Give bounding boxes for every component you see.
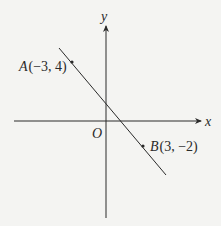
point-b-marker bbox=[141, 144, 144, 147]
origin-label: O bbox=[92, 126, 102, 141]
point-b-label: B(3, −2) bbox=[150, 139, 198, 155]
x-axis-label: x bbox=[204, 114, 212, 129]
point-a-label: A(−3, 4) bbox=[18, 59, 67, 75]
point-a-marker bbox=[70, 60, 73, 63]
y-axis-label: y bbox=[99, 9, 108, 24]
coordinate-diagram: x y O A(−3, 4) B(3, −2) bbox=[0, 0, 221, 226]
line-ab bbox=[59, 48, 166, 175]
